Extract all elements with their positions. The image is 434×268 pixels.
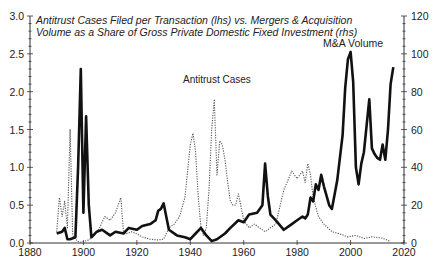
x-tick-label: 1880 bbox=[18, 246, 42, 258]
y-tick-right-label: 120 bbox=[411, 10, 429, 22]
x-tick-label: 2000 bbox=[339, 246, 363, 258]
y-tick-right-label: 60 bbox=[411, 124, 423, 136]
y-tick-left-label: 0.5 bbox=[9, 199, 24, 211]
annotation-antitrust-cases: Antitrust Cases bbox=[183, 74, 251, 85]
x-tick-label: 1980 bbox=[285, 246, 309, 258]
chart-title-line-2: Volume as a Share of Gross Private Domes… bbox=[36, 26, 357, 38]
y-tick-left-label: 2.5 bbox=[9, 48, 24, 60]
annotation-ma-volume: M&A Volume bbox=[323, 37, 383, 49]
y-tick-right-label: 20 bbox=[411, 199, 423, 211]
y-tick-right-label: 100 bbox=[411, 48, 429, 60]
y-tick-left-label: 1.5 bbox=[9, 124, 24, 136]
y-tick-left-label: 1.0 bbox=[9, 161, 24, 173]
x-tick-label: 1920 bbox=[125, 246, 149, 258]
y-tick-left-label: 3.0 bbox=[9, 10, 24, 22]
chart-title-line-1: Antitrust Cases Filed per Transaction (l… bbox=[35, 14, 352, 26]
y-tick-right-label: 80 bbox=[411, 86, 423, 98]
y-tick-right-label: 40 bbox=[411, 161, 423, 173]
y-tick-left-label: 2.0 bbox=[9, 86, 24, 98]
x-tick-label: 1900 bbox=[72, 246, 96, 258]
x-tick-label: 1960 bbox=[232, 246, 256, 258]
chart: 0.00.51.01.52.02.53.00204060801001201880… bbox=[0, 0, 434, 268]
x-tick-label: 1940 bbox=[179, 246, 203, 258]
x-tick-label: 2020 bbox=[392, 246, 416, 258]
antitrust-cases-line bbox=[57, 99, 391, 242]
